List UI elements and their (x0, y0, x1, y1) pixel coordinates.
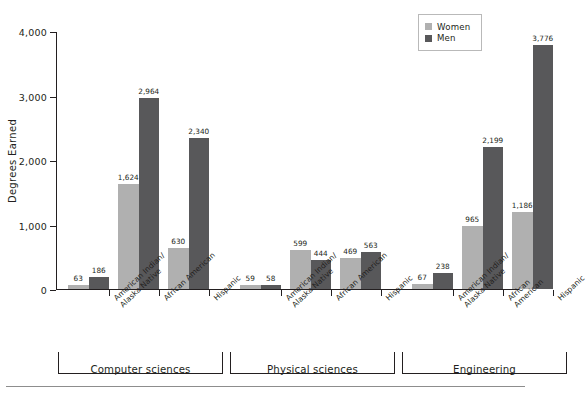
category-tick (281, 290, 282, 296)
group-label: Computer sciences (90, 364, 190, 375)
bar: 59 (240, 285, 261, 289)
bar-value-label: 59 (246, 274, 255, 283)
legend-item-women: Women (425, 22, 470, 32)
bar-value-label: 63 (74, 274, 83, 283)
category-tick (453, 290, 454, 296)
y-tick (50, 161, 56, 162)
legend-swatch-women (425, 23, 432, 30)
bar: 3,776 (533, 45, 554, 289)
bar-value-label: 965 (465, 215, 479, 224)
y-tick-label: 4,000 (19, 27, 47, 38)
legend-label-women: Women (437, 22, 470, 32)
bar-value-label: 67 (418, 273, 427, 282)
category-tick (503, 290, 504, 296)
footer-rule (6, 386, 525, 387)
bar: 186 (89, 277, 110, 289)
bar-value-label: 599 (293, 239, 307, 248)
category-tick (209, 290, 210, 296)
bar: 63 (68, 285, 89, 289)
bar: 58 (261, 285, 282, 289)
y-tick (50, 97, 56, 98)
y-tick (50, 32, 56, 33)
y-axis-line (56, 32, 57, 290)
y-tick-label: 3,000 (19, 91, 47, 102)
bar-value-label: 630 (171, 237, 185, 246)
plot-area: Degrees Earned 01,0002,0003,0004,000 631… (56, 32, 515, 290)
bar-value-label: 563 (364, 241, 378, 250)
group-label: Engineering (453, 364, 516, 375)
category-label: Hispanic (556, 273, 587, 302)
bar: 67 (412, 284, 433, 288)
bar-value-label: 2,199 (482, 136, 503, 145)
bar-value-label: 238 (436, 262, 450, 271)
bar-value-label: 58 (266, 274, 275, 283)
y-axis-title: Degrees Earned (7, 119, 18, 203)
category-tick (109, 290, 110, 296)
category-tick (553, 290, 554, 296)
y-tick-label: 1,000 (19, 220, 47, 231)
y-tick (50, 290, 56, 291)
bar-value-label: 3,776 (532, 34, 553, 43)
bar-value-label: 2,340 (188, 127, 209, 136)
bar-value-label: 186 (92, 266, 106, 275)
group-label: Physical sciences (267, 364, 358, 375)
y-tick-label: 0 (41, 285, 47, 296)
category-tick (381, 290, 382, 296)
bar-value-label: 469 (343, 247, 357, 256)
category-tick (331, 290, 332, 296)
bar-value-label: 1,624 (118, 173, 139, 182)
bar-value-label: 2,964 (138, 87, 159, 96)
bar: 238 (433, 273, 454, 288)
category-tick (159, 290, 160, 296)
y-tick-label: 2,000 (19, 156, 47, 167)
bar-value-label: 1,186 (512, 201, 533, 210)
y-tick (50, 226, 56, 227)
